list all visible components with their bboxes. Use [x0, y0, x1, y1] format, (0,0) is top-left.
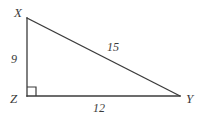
- triangle-side-xy: [27, 18, 180, 96]
- side-length-label-zy: 12: [93, 102, 105, 114]
- side-length-label-xz: 9: [11, 53, 17, 65]
- right-angle-marker-icon: [27, 87, 36, 96]
- geometry-figure: X Z Y 9 15 12: [0, 0, 203, 121]
- vertex-label-z: Z: [10, 92, 17, 105]
- side-length-label-xy: 15: [107, 41, 119, 53]
- vertex-label-x: X: [14, 6, 22, 19]
- vertex-label-y: Y: [186, 92, 193, 105]
